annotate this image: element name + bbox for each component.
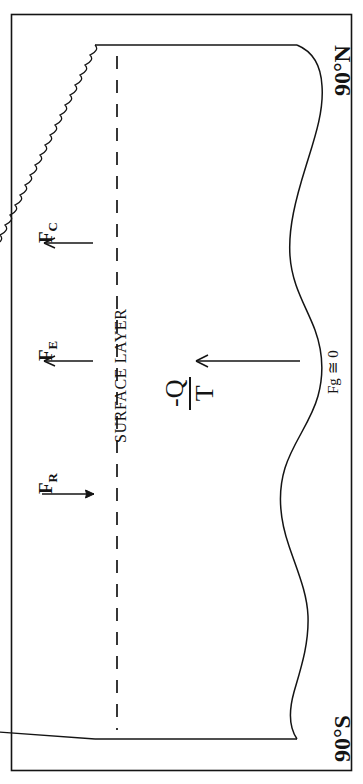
arrow-label-fr-sub: R [45, 473, 60, 482]
fraction-numerator: -Q [162, 377, 189, 410]
arrow-label-fe-main: F [35, 349, 56, 361]
entropy-flux-label: -Q T [162, 377, 218, 410]
latitude-label-south: 90°S [330, 715, 354, 762]
arrow-label-fe: FE [36, 341, 60, 361]
arrow-label-fg: Fg ≅ 0 [326, 350, 341, 394]
figure-page: 90°N 90°S SURFACE LAYER FR FE FC Fg ≅ 0 … [0, 0, 363, 784]
surface-boundary-wavy-line [0, 45, 97, 739]
arrow-fg [196, 355, 300, 367]
arrow-label-fc-main: F [35, 231, 56, 243]
arrow-label-fr: FR [36, 473, 60, 494]
arrow-label-fr-main: F [35, 482, 56, 494]
fraction-denominator: T [189, 377, 218, 410]
fraction: -Q T [162, 377, 218, 410]
atmosphere-top-wavy-curve [280, 45, 322, 739]
arrow-label-fc-sub: C [45, 222, 60, 231]
arrow-label-fc: FC [36, 222, 60, 243]
surface-layer-label: SURFACE LAYER [113, 309, 129, 444]
latitude-label-north: 90°N [330, 45, 354, 96]
arrow-label-fe-sub: E [45, 341, 60, 350]
